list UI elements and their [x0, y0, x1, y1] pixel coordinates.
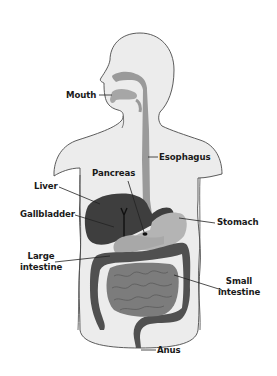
label-large-intestine: Large intestine: [20, 251, 62, 273]
label-stomach: Stomach: [217, 217, 258, 228]
label-anus: Anus: [157, 345, 181, 356]
label-small-intestine-line2: intestine: [218, 287, 260, 298]
label-large-intestine-line1: Large: [20, 251, 62, 262]
label-large-intestine-line2: intestine: [20, 262, 62, 273]
label-liver: Liver: [34, 181, 58, 192]
label-small-intestine: Small intestine: [218, 276, 260, 298]
pancreatic-duct: [143, 232, 148, 236]
small-intestine-shape: [107, 263, 179, 317]
label-gallbladder: Gallbladder: [20, 209, 75, 220]
label-esophagus: Esophagus: [159, 152, 210, 163]
label-pancreas: Pancreas: [92, 168, 135, 179]
label-mouth: Mouth: [66, 90, 96, 101]
label-small-intestine-line1: Small: [218, 276, 260, 287]
